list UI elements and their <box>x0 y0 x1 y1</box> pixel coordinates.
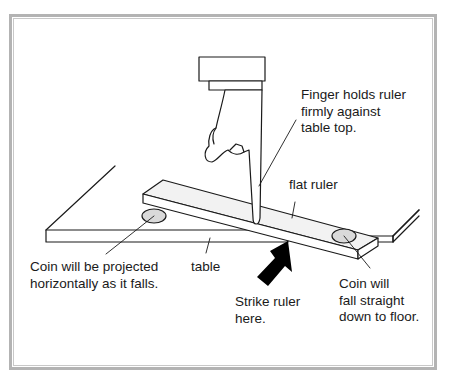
label-coin-left: Coin will be projected horizontally as i… <box>30 259 158 292</box>
label-coin-right: Coin will fall straight down to floor. <box>339 276 419 326</box>
label-flat-ruler: flat ruler <box>289 177 338 194</box>
label-strike: Strike ruler here. <box>235 294 300 327</box>
table-edge-left <box>46 166 115 230</box>
table-edge-right <box>393 210 419 242</box>
label-finger: Finger holds ruler firmly against table … <box>301 87 406 137</box>
diagram-illustration <box>0 0 453 385</box>
label-table: table <box>191 259 220 276</box>
strike-arrow-icon <box>257 241 292 286</box>
